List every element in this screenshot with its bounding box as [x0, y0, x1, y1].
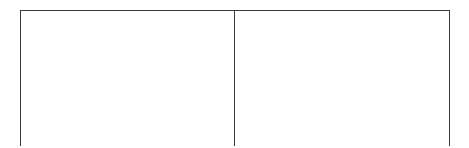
table-cell-right[interactable] — [235, 11, 449, 146]
table — [20, 10, 450, 146]
document-page — [0, 0, 469, 148]
table-row — [21, 11, 449, 146]
table-cell-left[interactable] — [21, 11, 235, 146]
